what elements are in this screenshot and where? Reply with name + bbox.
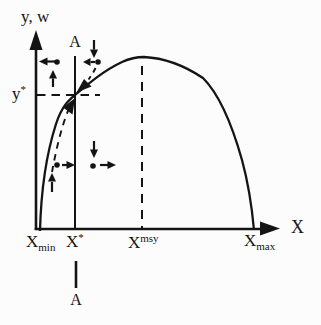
y-axis-title: y, w (21, 8, 49, 25)
yield-curve-phase-diagram: y, w A y* Xmin X* Xmsy Xmax X A (0, 0, 321, 325)
yield-curve (40, 57, 254, 231)
left-arrow-upper-left (39, 58, 55, 66)
x-star-sup: * (78, 231, 84, 243)
down-arrow-upper-right (90, 40, 98, 58)
x-msy-label: Xmsy (128, 234, 159, 251)
x-star-base: X (66, 232, 78, 251)
state-dot-lower-left (54, 162, 60, 168)
diagram-canvas (0, 0, 321, 325)
state-dot-upper-left (54, 59, 60, 65)
trajectory-upper-arrowhead (77, 79, 92, 93)
up-arrow-upper-left (49, 70, 57, 87)
x-min-base: X (26, 232, 38, 251)
y-star-base: y (12, 84, 21, 103)
x-axis-title: X (291, 218, 304, 236)
state-dot-upper-right (95, 59, 101, 65)
x-star-label: X* (66, 233, 84, 250)
x-max-label: Xmax (244, 232, 275, 249)
x-max-base: X (244, 231, 256, 250)
right-arrow-lower-right (100, 161, 116, 169)
left-arrow-upper-right (83, 58, 95, 66)
x-msy-sup: msy (140, 232, 158, 244)
x-msy-base: X (128, 233, 140, 252)
section-label-A-top: A (67, 34, 83, 50)
up-arrow-lower-left (48, 173, 56, 192)
x-min-sub: min (38, 241, 55, 253)
state-dot-lower-right (90, 163, 96, 169)
y-star-label: y* (12, 85, 26, 102)
y-star-sup: * (21, 83, 27, 95)
section-label-A-bottom: A (69, 292, 83, 308)
down-arrow-lower-right (90, 141, 98, 158)
y-axis-arrowhead (30, 30, 43, 50)
right-arrow-lower-left (62, 161, 75, 169)
x-min-label: Xmin (26, 233, 55, 250)
x-max-sub: max (256, 240, 275, 252)
